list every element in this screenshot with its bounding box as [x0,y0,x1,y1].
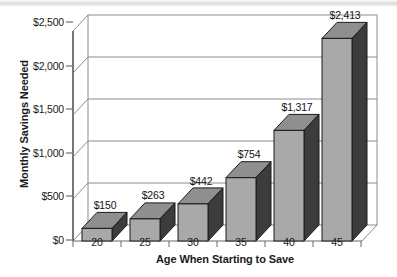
data-label-30: $442 [190,175,213,187]
chart-figure: Monthly Savings Needed Age When Starting… [0,0,397,277]
data-label-35: $754 [238,148,261,160]
data-label-25: $263 [142,189,165,201]
x-tick-label-30: 30 [166,236,220,248]
x-tick-label-40: 40 [262,236,316,248]
bar-40 [274,114,319,241]
x-tick-label-25: 25 [118,236,172,248]
x-tick-label-45: 45 [310,236,364,248]
x-tick-label-20: 20 [70,236,124,248]
gridline-depth-stubs [73,57,88,199]
bar-45 [322,22,367,241]
x-tick-label-35: 35 [214,236,268,248]
data-label-40: $1,317 [282,101,313,113]
data-label-20: $150 [94,199,117,211]
bar-35 [226,162,271,241]
data-label-45: $2,413 [330,9,361,21]
